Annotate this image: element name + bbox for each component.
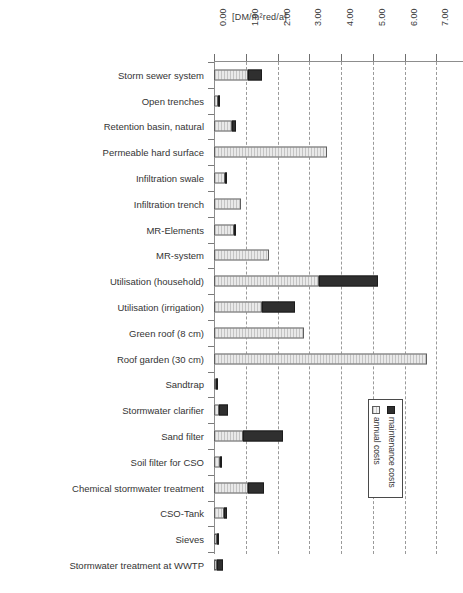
- bar-segment-annual-costs: [214, 327, 304, 338]
- tick-label-2.00: 2.00: [282, 8, 292, 26]
- tick-label-0.00: 0.00: [218, 8, 228, 26]
- bar-segment-maintenance-costs: [248, 482, 264, 493]
- bar-row: CSO-Tank: [0, 501, 463, 527]
- category-label: Soil filter for CSO: [131, 456, 204, 467]
- bar-row: Infiltration swale: [0, 165, 463, 191]
- category-tick: [208, 191, 214, 192]
- category-label: Green roof (8 cm): [129, 327, 204, 338]
- chart-legend: maintenance costs annual costs: [368, 399, 403, 498]
- bar-segment-annual-costs: [214, 173, 225, 184]
- category-tick: [208, 397, 214, 398]
- category-label: MR-Elements: [146, 224, 204, 235]
- bar-segment-annual-costs: [214, 121, 232, 132]
- bar-row: Open trenches: [0, 88, 463, 114]
- bar-segment-annual-costs: [214, 224, 234, 235]
- tick-label-6.00: 6.00: [409, 8, 419, 26]
- bar-row: Storm sewer system: [0, 62, 463, 88]
- tick-2.00: [278, 54, 279, 61]
- tick-1.00: [246, 54, 247, 61]
- bar-segment-maintenance-costs: [217, 534, 219, 545]
- category-label: Sieves: [175, 534, 204, 545]
- tick-5.00: [373, 54, 374, 61]
- bar-segment-annual-costs: [214, 198, 241, 209]
- bar-segment-maintenance-costs: [248, 69, 262, 80]
- tick-label-7.00: 7.00: [440, 8, 450, 26]
- bar-row: Infiltration trench: [0, 191, 463, 217]
- category-label: Infiltration trench: [134, 198, 204, 209]
- bar-segment-maintenance-costs: [220, 456, 223, 467]
- bar-row: Green roof (8 cm): [0, 320, 463, 346]
- bar-segment-maintenance-costs: [232, 121, 236, 132]
- category-tick: [208, 139, 214, 140]
- category-tick: [208, 268, 214, 269]
- category-tick: [208, 114, 214, 115]
- bar-segment-maintenance-costs: [219, 405, 229, 416]
- bar-segment-annual-costs: [214, 482, 248, 493]
- category-tick: [208, 165, 214, 166]
- bar-segment-maintenance-costs: [234, 224, 237, 235]
- category-label: Retention basin, natural: [104, 121, 204, 132]
- bar-segment-annual-costs: [214, 147, 327, 158]
- bar-row: Retention basin, natural: [0, 114, 463, 140]
- legend-label-maintenance: maintenance costs: [387, 417, 397, 488]
- bar-segment-maintenance-costs: [224, 508, 227, 519]
- category-label: Stormwater treatment at WWTP: [69, 560, 204, 571]
- bar-segment-maintenance-costs: [262, 302, 295, 313]
- bar-segment-annual-costs: [214, 431, 243, 442]
- category-label: Infiltration swale: [136, 173, 204, 184]
- category-tick: [208, 449, 214, 450]
- legend-item-maintenance-costs: maintenance costs: [385, 404, 400, 494]
- tick-3.00: [309, 54, 310, 61]
- bar-segment-maintenance-costs: [217, 560, 223, 571]
- bar-segment-maintenance-costs: [216, 379, 218, 390]
- tick-6.00: [405, 54, 406, 61]
- category-label: MR-system: [156, 250, 204, 261]
- bar-segment-maintenance-costs: [243, 431, 284, 442]
- tick-label-1.00: 1.00: [250, 8, 260, 26]
- tick-4.00: [341, 54, 342, 61]
- tick-label-4.00: 4.00: [345, 8, 355, 26]
- category-tick: [208, 552, 214, 553]
- tick-0.00: [214, 54, 215, 61]
- category-tick: [208, 526, 214, 527]
- bar-row: Sieves: [0, 526, 463, 552]
- bar-segment-annual-costs: [214, 302, 262, 313]
- category-label: Sandtrap: [165, 379, 204, 390]
- category-tick: [208, 372, 214, 373]
- category-tick: [208, 501, 214, 502]
- bar-segment-annual-costs: [214, 508, 224, 519]
- tick-label-5.00: 5.00: [377, 8, 387, 26]
- bar-segment-annual-costs: [214, 276, 319, 287]
- category-label: Permeable hard surface: [103, 147, 204, 158]
- category-tick: [208, 217, 214, 218]
- legend-swatch-icon-maintenance: [387, 406, 395, 414]
- bar-segment-annual-costs: [214, 69, 248, 80]
- bar-segment-annual-costs: [214, 250, 269, 261]
- bar-row: MR-Elements: [0, 217, 463, 243]
- bar-segment-annual-costs: [214, 353, 427, 364]
- bar-chart: [DM/m²red/a] 0.001.002.003.004.005.006.0…: [0, 0, 463, 593]
- bar-row: Sandtrap: [0, 372, 463, 398]
- category-label: CSO-Tank: [160, 508, 204, 519]
- category-label: Utilisation (irrigation): [117, 302, 204, 313]
- category-label: Storm sewer system: [118, 69, 204, 80]
- category-tick: [208, 320, 214, 321]
- category-label: Stormwater clarifier: [122, 405, 204, 416]
- bar-row: Utilisation (irrigation): [0, 294, 463, 320]
- category-tick: [208, 243, 214, 244]
- category-label: Roof garden (30 cm): [117, 353, 204, 364]
- category-label: Utilisation (household): [110, 276, 204, 287]
- bar-row: Roof garden (30 cm): [0, 346, 463, 372]
- category-label: Sand filter: [161, 431, 204, 442]
- tick-label-3.00: 3.00: [313, 8, 323, 26]
- bar-segment-maintenance-costs: [319, 276, 378, 287]
- legend-swatch-icon-annual: [372, 406, 380, 414]
- legend-label-annual: annual costs: [372, 417, 382, 465]
- bar-row: MR-system: [0, 243, 463, 269]
- bar-segment-maintenance-costs: [218, 95, 220, 106]
- legend-item-annual-costs: annual costs: [370, 404, 385, 494]
- category-label: Chemical stormwater treatment: [72, 482, 204, 493]
- bar-segment-maintenance-costs: [225, 173, 227, 184]
- category-tick: [208, 475, 214, 476]
- bar-row: Utilisation (household): [0, 268, 463, 294]
